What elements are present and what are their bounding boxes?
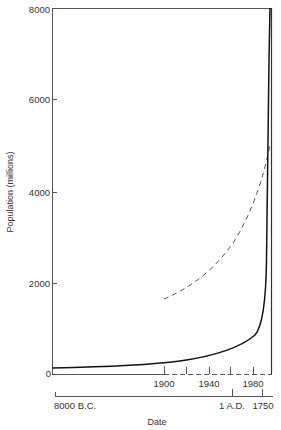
xtick-label-1900: 1900: [153, 378, 174, 389]
xtick-label-8000bc: 8000 B.C.: [54, 400, 96, 411]
y-tick-labels: 8000 6000 4000 2000 0: [29, 4, 51, 379]
x-upper-tick-labels: 1900 1940 1980: [153, 378, 263, 389]
y-axis-title: Population (millions): [5, 151, 15, 232]
series-20th-century-dashed: [164, 145, 270, 299]
plot-frame: [53, 8, 273, 375]
x-axis-title: Date: [147, 417, 166, 427]
ytick-label-2000: 2000: [29, 278, 50, 289]
ytick-label-8000: 8000: [29, 4, 50, 15]
x-lower-tick-labels: 8000 B.C. 1 A.D. 1750: [54, 400, 274, 411]
xtick-label-1750: 1750: [252, 400, 273, 411]
series-long-term-solid: [53, 8, 271, 368]
ytick-label-6000: 6000: [29, 94, 50, 105]
xtick-label-1940: 1940: [198, 378, 219, 389]
lower-x-axis: [55, 389, 273, 397]
population-chart: 8000 6000 4000 2000 0 Population (millio…: [0, 0, 281, 430]
ytick-label-0: 0: [46, 368, 51, 379]
ytick-label-4000: 4000: [29, 187, 50, 198]
xtick-label-1980: 1980: [242, 378, 263, 389]
xtick-label-1ad: 1 A.D.: [219, 400, 245, 411]
